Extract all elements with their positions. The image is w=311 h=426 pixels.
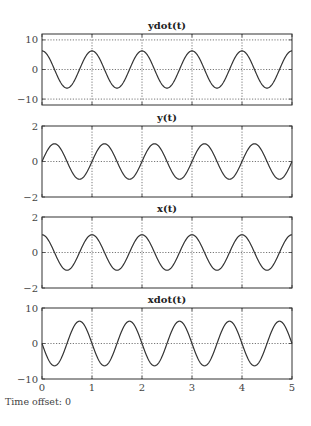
series-line-ydot bbox=[42, 51, 292, 88]
y-tick-label: 2 bbox=[32, 121, 38, 132]
panel-title: x(t) bbox=[157, 203, 177, 214]
y-tick-label: −10 bbox=[17, 94, 38, 105]
chart-figure: ydot(t)−10010y(t)−202x(t)−202xdot(t)−100… bbox=[0, 0, 311, 426]
y-tick-label: 0 bbox=[32, 64, 38, 75]
time-offset-value: 0 bbox=[65, 396, 71, 407]
y-tick-label: 10 bbox=[25, 303, 38, 314]
panel-title: y(t) bbox=[156, 112, 177, 123]
y-tick-label: 0 bbox=[32, 247, 38, 258]
time-offset-readout: Time offset: 0 bbox=[5, 396, 71, 407]
y-tick-label: 0 bbox=[32, 338, 38, 349]
panel-title: ydot(t) bbox=[147, 20, 186, 31]
panel-title: xdot(t) bbox=[148, 294, 186, 305]
time-offset-label: Time offset: bbox=[5, 396, 62, 407]
y-tick-label: 0 bbox=[32, 156, 38, 167]
y-tick-label: 2 bbox=[32, 212, 38, 223]
x-tick-label: 4 bbox=[239, 382, 245, 393]
x-tick-label: 1 bbox=[89, 382, 95, 393]
x-tick-label: 0 bbox=[39, 382, 45, 393]
x-tick-label: 5 bbox=[289, 382, 295, 393]
y-tick-label: −2 bbox=[23, 283, 38, 294]
series-line-x bbox=[42, 235, 292, 271]
x-tick-label: 3 bbox=[189, 382, 195, 393]
x-tick-label: 2 bbox=[139, 382, 145, 393]
y-tick-label: −10 bbox=[17, 374, 38, 385]
y-tick-label: 10 bbox=[25, 34, 38, 45]
y-tick-label: −2 bbox=[23, 192, 38, 203]
